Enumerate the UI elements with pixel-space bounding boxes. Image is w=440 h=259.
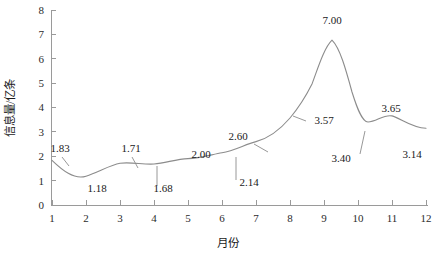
y-axis-ticks [51, 10, 56, 205]
y-tick-label-7: 7 [39, 28, 45, 40]
y-tick-label-3: 3 [39, 126, 45, 138]
x-tick-label-11: 11 [387, 212, 398, 224]
x-tick-label-9: 9 [321, 212, 327, 224]
x-tick-label-1: 1 [49, 212, 55, 224]
leader-month-7 [254, 144, 268, 152]
y-tick-label-1: 1 [39, 175, 45, 187]
y-axis-tick-labels: 0 1 2 3 4 5 6 7 8 [39, 4, 45, 211]
y-tick-label-6: 6 [39, 53, 45, 65]
line-chart-figure: 0 1 2 3 4 5 6 7 8 信息量/亿条 [0, 0, 440, 259]
data-label-month-3: 1.71 [121, 142, 140, 154]
data-label-month-2: 1.18 [87, 182, 107, 194]
chart-canvas: 0 1 2 3 4 5 6 7 8 信息量/亿条 [0, 0, 440, 259]
leader-month-10 [360, 131, 365, 154]
x-tick-label-8: 8 [287, 212, 293, 224]
y-tick-label-0: 0 [39, 199, 45, 211]
y-tick-label-4: 4 [39, 101, 45, 113]
x-axis-tick-labels: 1 2 3 4 5 6 7 8 9 10 11 12 [49, 212, 431, 224]
x-tick-label-5: 5 [185, 212, 191, 224]
data-label-month-9: 7.00 [322, 14, 342, 26]
x-tick-label-4: 4 [151, 212, 157, 224]
data-label-month-4: 1.68 [153, 182, 173, 194]
x-axis-title: 月份 [217, 237, 240, 249]
x-tick-label-6: 6 [219, 212, 225, 224]
leader-month-1 [62, 157, 69, 166]
leader-month-8 [293, 116, 306, 121]
data-label-month-1: 1.83 [50, 142, 70, 154]
y-tick-label-2: 2 [39, 150, 45, 162]
data-label-month-5: 2.00 [191, 148, 211, 160]
leader-month-3 [132, 157, 138, 168]
y-tick-label-5: 5 [39, 77, 45, 89]
data-label-month-7: 2.60 [228, 130, 248, 142]
data-series-line [52, 40, 426, 177]
x-tick-label-2: 2 [83, 212, 89, 224]
y-axis-title: 信息量/亿条 [3, 78, 16, 137]
x-tick-label-12: 12 [421, 212, 432, 224]
data-label-month-6: 2.14 [239, 176, 259, 188]
data-label-month-11: 3.65 [381, 102, 401, 114]
x-tick-label-7: 7 [253, 212, 259, 224]
data-label-month-8: 3.57 [314, 114, 334, 126]
data-label-month-12: 3.14 [402, 148, 422, 160]
data-label-month-10: 3.40 [331, 152, 351, 164]
y-tick-label-8: 8 [39, 4, 45, 16]
data-label-leaders [62, 116, 365, 186]
x-axis-ticks [52, 200, 426, 205]
x-axis-group: 1 2 3 4 5 6 7 8 9 10 11 12 月份 [49, 200, 431, 249]
x-tick-label-10: 10 [353, 212, 365, 224]
y-axis-group: 0 1 2 3 4 5 6 7 8 信息量/亿条 [3, 4, 56, 211]
x-tick-label-3: 3 [117, 212, 123, 224]
